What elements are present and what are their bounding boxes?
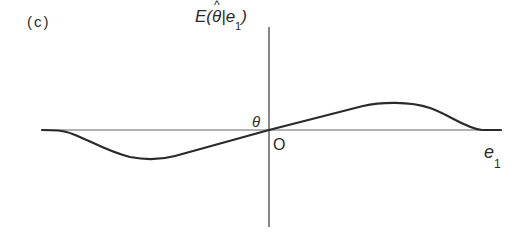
x-label-subscript: 1 (494, 157, 501, 171)
origin-label: O (273, 137, 285, 153)
theta-hat-symbol: θ (212, 8, 221, 25)
y-label-subscript: 1 (235, 20, 241, 32)
x-label-base: e (484, 142, 494, 162)
y-label-sep: |e (221, 7, 235, 26)
diagram-canvas (0, 0, 524, 238)
y-label-suffix: ) (241, 7, 247, 26)
y-label-prefix: E( (195, 7, 212, 26)
theta-intercept-label: θ (252, 114, 260, 129)
expectation-curve (42, 103, 501, 159)
y-axis-label: E(θ|e1) (195, 8, 247, 28)
x-axis-label: e1 (484, 143, 501, 165)
panel-label: (c) (27, 14, 51, 29)
